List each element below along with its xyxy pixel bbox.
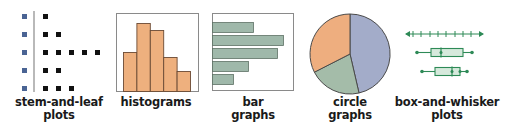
bar-graph-icon [213,14,294,91]
leaf-square [43,50,48,55]
bar-graph-bar [213,49,278,59]
leaf-square [95,50,100,55]
stem-and-leaf-plot-icon [22,11,100,92]
stem-square [22,86,27,91]
circle-graph-icon [310,14,390,94]
leaf-square [43,68,48,73]
label-stem-and-leaf: stem-and-leaf plots [4,96,114,122]
box-and-whisker-icon [405,31,484,77]
leaf-square [69,86,74,91]
box-plot-2 [420,67,469,77]
label-line: plots [4,109,114,122]
number-line [405,31,484,37]
label-line: histograms [101,96,211,109]
label-histograms: histograms [101,96,211,109]
leaf-square [56,32,61,37]
leaves [43,14,100,91]
label-line: graphs [198,109,308,122]
bar-graph-bar [213,62,249,72]
label-bar-graphs: bar graphs [198,96,308,122]
arrow-left-icon [405,31,410,37]
leaf-square [82,50,87,55]
bar-graph-bar [213,36,284,46]
bar-graph-bar [213,75,234,85]
leaf-square [69,50,74,55]
label-line: plots [389,109,505,122]
stem-square [22,32,27,37]
leaf-square [56,50,61,55]
leaf-square [43,86,48,91]
stem-square [22,68,27,73]
stem-square [22,50,27,55]
stem-square [22,14,27,19]
histogram-bar [150,31,163,92]
histogram-bar [177,72,190,92]
histogram-bar [137,24,150,92]
label-box-and-whisker: box-and-whisker plots [389,96,505,122]
histogram-bar [164,58,177,92]
leaf-square [43,14,48,19]
leaf-square [56,68,61,73]
leaf-square [43,32,48,37]
stems [22,14,27,91]
bar-graph-bar [213,23,254,33]
leaf-square [56,86,61,91]
histogram-icon [117,14,199,92]
box-plot-1 [415,48,474,58]
histogram-bar [124,53,137,92]
arrow-right-icon [479,31,484,37]
